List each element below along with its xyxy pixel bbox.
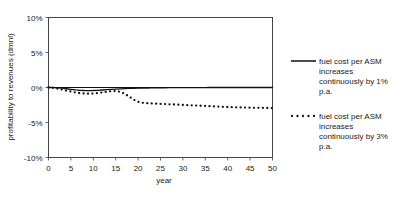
x-axis-title: year (156, 176, 172, 185)
legend-entry-dotted: fuel cost per ASM increases continuously… (291, 112, 388, 151)
x-tick-label: 15 (111, 164, 120, 173)
y-tick-label: 5% (31, 49, 43, 58)
chart-figure: 10%5%0%-5%-10% 05101520253035404550 prof… (0, 0, 408, 205)
x-tick-label: 5 (69, 164, 74, 173)
legend-label-2-line-4: p.a. (319, 142, 332, 151)
x-tick-label: 45 (246, 164, 255, 173)
x-tick-label: 0 (46, 164, 51, 173)
legend-label-1-line-1: fuel cost per ASM (319, 57, 382, 66)
y-tick-label: 10% (26, 14, 42, 23)
legend-label-1-line-2: increases (319, 67, 353, 76)
x-tick-label: 10 (89, 164, 98, 173)
x-tick-label: 35 (201, 164, 210, 173)
legend-entry-solid: fuel cost per ASM increases continuously… (291, 57, 388, 96)
y-tick-label: -5% (28, 119, 42, 128)
y-axis-title: profitability to revenues (dmnl) (6, 33, 15, 140)
x-tick-label: 25 (156, 164, 165, 173)
legend: fuel cost per ASM increases continuously… (291, 57, 388, 151)
y-axis-tick-labels: 10%5%0%-5%-10% (24, 14, 43, 163)
legend-label-2-line-1: fuel cost per ASM (319, 112, 382, 121)
x-tick-label: 40 (223, 164, 232, 173)
legend-label-1-line-4: p.a. (319, 87, 332, 96)
x-tick-label: 30 (178, 164, 187, 173)
x-axis-tick-labels: 05101520253035404550 (46, 164, 277, 173)
y-tick-label: 0% (31, 84, 43, 93)
legend-label-2-line-3: continuously by 3% (319, 132, 388, 141)
x-tick-label: 50 (268, 164, 277, 173)
profitability-to-revenues-chart: 10%5%0%-5%-10% 05101520253035404550 prof… (0, 0, 408, 205)
legend-label-1-line-3: continuously by 1% (319, 77, 388, 86)
data-series-layer (47, 86, 273, 109)
y-tick-label: -10% (24, 154, 43, 163)
legend-label-2-line-2: increases (319, 122, 353, 131)
x-tick-label: 20 (134, 164, 143, 173)
legend-swatch-dotted-line (291, 115, 315, 117)
